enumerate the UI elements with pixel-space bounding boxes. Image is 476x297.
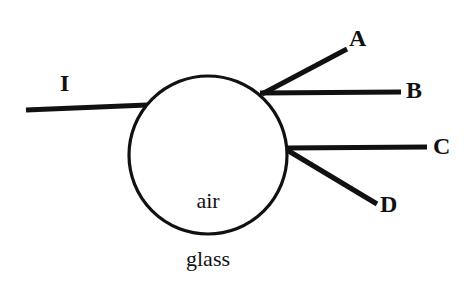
ray-label-C: C bbox=[433, 134, 450, 158]
ray-D bbox=[287, 150, 377, 204]
ray-label-I: I bbox=[60, 71, 69, 95]
ray-label-D: D bbox=[380, 192, 397, 216]
ray-B bbox=[260, 92, 401, 93]
medium-label-glass: glass bbox=[158, 248, 258, 270]
medium-label-air: air bbox=[168, 190, 248, 212]
ray-C bbox=[286, 147, 427, 148]
ray-A bbox=[262, 49, 347, 94]
physics-ray-diagram: I A B C D air glass bbox=[0, 0, 476, 297]
ray-label-B: B bbox=[406, 78, 422, 102]
incident-ray-I bbox=[26, 105, 147, 110]
ray-label-A: A bbox=[349, 26, 366, 50]
